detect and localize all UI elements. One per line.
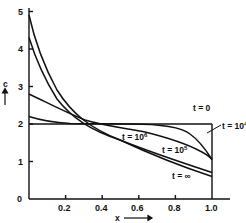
y-tick-2: 2 — [18, 119, 23, 129]
label-t1e5: t = 105 — [162, 145, 188, 155]
y-tick-5: 5 — [18, 7, 23, 17]
curve-t1e4 — [29, 117, 212, 160]
y-axis-label: c — [3, 79, 8, 89]
y-tick-0: 0 — [17, 194, 22, 204]
label-tinf: t = ∞ — [172, 171, 191, 181]
x-tick-0.8: 0.8 — [168, 203, 181, 213]
x-axis-arrow-icon — [124, 216, 152, 221]
curves — [29, 15, 212, 177]
label-t0: t = 0 — [193, 103, 211, 113]
label-t1e6: t = 106 — [122, 132, 148, 142]
concentration-chart: 0 1 2 3 4 5 0.2 0.4 0.6 0.8 1.0 x c t = … — [0, 0, 246, 223]
label-t1e4: t = 104 — [222, 121, 246, 131]
y-tick-3: 3 — [18, 82, 23, 92]
y-tick-1: 1 — [18, 157, 23, 167]
y-axis-arrow-icon — [3, 89, 8, 106]
y-tick-4: 4 — [18, 44, 23, 54]
curve-t1e6 — [29, 38, 212, 173]
x-tick-1.0: 1.0 — [205, 203, 218, 213]
leader-t1e4 — [207, 125, 221, 133]
x-tick-0.6: 0.6 — [131, 203, 144, 213]
x-axis-label: x — [115, 213, 120, 223]
x-tick-0.4: 0.4 — [95, 203, 108, 213]
curve-tinf — [29, 15, 212, 177]
x-tick-0.2: 0.2 — [58, 203, 71, 213]
